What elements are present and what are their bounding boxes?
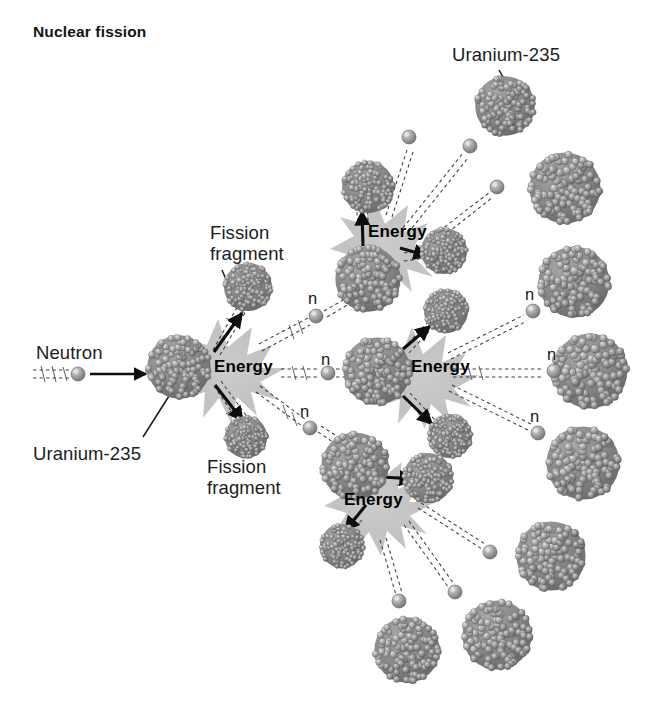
uranium-235-nucleus bbox=[515, 521, 585, 591]
fission-fragment-nucleus bbox=[427, 414, 473, 459]
free-neutron bbox=[392, 594, 406, 608]
uranium-235-nucleus bbox=[551, 333, 630, 409]
label-uranium-235-top: Uranium-235 bbox=[452, 44, 560, 65]
page-title: Nuclear fission bbox=[33, 23, 146, 41]
nuclear-fission-figure: Nuclear fission Neutron Uranium-235 Uran… bbox=[0, 0, 658, 713]
uranium-235-nucleus bbox=[372, 616, 441, 684]
label-fission-fragment-top: Fission fragment bbox=[210, 222, 284, 265]
free-neutron bbox=[547, 364, 561, 378]
fission-fragment-nucleus bbox=[319, 523, 365, 569]
free-neutron bbox=[463, 139, 477, 153]
label-line: Fission bbox=[210, 222, 284, 243]
label-neutron-symbol-2: n bbox=[321, 350, 330, 369]
uranium-235-nucleus bbox=[475, 75, 537, 136]
label-line: fragment bbox=[210, 243, 284, 264]
free-neutron bbox=[448, 585, 462, 599]
uranium-235-nucleus bbox=[546, 427, 622, 502]
label-neutron-symbol-5: n bbox=[547, 345, 556, 364]
incoming-neutron bbox=[71, 367, 85, 381]
free-neutron bbox=[303, 421, 317, 435]
label-neutron-symbol-6: n bbox=[530, 407, 539, 426]
label-energy-fission-4: Energy bbox=[344, 490, 403, 510]
free-neutron bbox=[526, 304, 540, 318]
free-neutron bbox=[309, 309, 323, 323]
fission-fragment-nucleus bbox=[341, 160, 395, 214]
leader-line-uranium-left bbox=[143, 396, 169, 437]
uranium-235-nucleus bbox=[527, 151, 603, 225]
free-neutron bbox=[402, 130, 416, 144]
label-fission-fragment-bottom: Fission fragment bbox=[207, 456, 281, 499]
uranium-235-nucleus bbox=[461, 599, 533, 671]
label-line: fragment bbox=[207, 477, 281, 498]
label-neutron-symbol-3: n bbox=[300, 402, 309, 421]
label-line: Fission bbox=[207, 456, 281, 477]
label-uranium-235-left: Uranium-235 bbox=[33, 443, 141, 464]
fission-fragment-nucleus bbox=[223, 262, 273, 312]
fission-fragment-nucleus bbox=[420, 227, 469, 274]
fission-fragment-nucleus bbox=[402, 453, 454, 503]
free-neutron bbox=[490, 180, 504, 194]
label-energy-fission-2: Energy bbox=[368, 222, 427, 242]
label-neutron: Neutron bbox=[36, 342, 103, 363]
label-energy-fission-3: Energy bbox=[411, 357, 470, 377]
label-neutron-symbol-1: n bbox=[308, 289, 317, 308]
uranium-235-nucleus bbox=[537, 245, 611, 318]
free-neutron bbox=[483, 545, 497, 559]
label-energy-fission-1: Energy bbox=[214, 357, 273, 377]
free-neutron bbox=[531, 426, 545, 440]
label-neutron-symbol-4: n bbox=[525, 285, 534, 304]
